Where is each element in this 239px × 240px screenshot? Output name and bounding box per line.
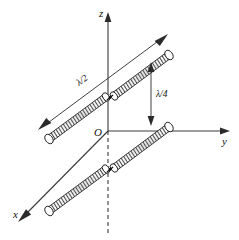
lambda-over-4-label: λ/4	[155, 89, 168, 99]
axis-label-z: z	[98, 7, 104, 19]
lower-dipole-left-arm	[43, 163, 111, 217]
axis-z: z	[98, 7, 111, 131]
axis-label-x: x	[12, 208, 18, 220]
axis-label-y: y	[221, 135, 227, 147]
lambda4-arrowhead-bottom	[148, 116, 155, 126]
figure-canvas: z y x O	[0, 0, 239, 240]
axis-group: z y x O	[12, 7, 230, 233]
z-axis-arrowhead	[105, 12, 112, 22]
lower-dipole-right-arm	[109, 121, 175, 174]
origin-label: O	[94, 126, 102, 138]
dimension-lambda-over-2: λ/2	[38, 34, 168, 130]
lambda2-arrowhead-left	[38, 118, 51, 130]
y-axis-arrowhead	[220, 128, 230, 135]
dimension-lambda-over-4: λ/4	[148, 62, 168, 126]
lower-left-shading	[47, 166, 108, 214]
lambda-over-2-label: λ/2	[73, 73, 89, 89]
lower-dipole	[43, 121, 175, 218]
dipole-array-figure: z y x O	[0, 0, 239, 240]
lambda2-arrowhead-right	[155, 34, 168, 46]
